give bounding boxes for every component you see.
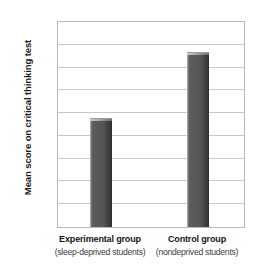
category-label-sub: (nondeprived students) [137,247,257,257]
bar-chart: Mean score on critical thinking test 051… [0,0,262,274]
category-label: Control group(nondeprived students) [137,234,257,257]
gridline [58,112,244,113]
gridline [58,158,244,159]
bar-top-face [187,52,209,55]
bar [187,52,209,227]
gridline [58,135,244,136]
category-label-main: Control group [137,234,257,244]
bar-top-face [90,118,112,121]
plot-area [57,21,245,228]
gridline [58,203,244,204]
gridline [58,67,244,68]
gridline [58,89,244,90]
bar [90,118,112,227]
gridline [58,180,244,181]
gridline [58,44,244,45]
